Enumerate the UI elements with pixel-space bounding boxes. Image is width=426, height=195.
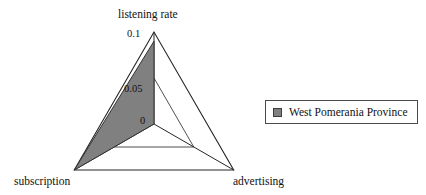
tick-label-middle: 0.05 bbox=[124, 84, 142, 95]
tick-label-outer: 0.1 bbox=[127, 29, 140, 40]
radar-chart-figure: listening rate subscription advertising … bbox=[0, 0, 426, 195]
legend-swatch-icon bbox=[273, 108, 282, 117]
tick-label-center: 0 bbox=[140, 116, 145, 127]
legend-entry-label: West Pomerania Province bbox=[289, 106, 408, 118]
axis-label-advertising: advertising bbox=[233, 176, 284, 188]
axis-label-listening-rate: listening rate bbox=[118, 9, 178, 21]
radar-chart-plot-area bbox=[0, 0, 426, 195]
chart-legend: West Pomerania Province bbox=[265, 100, 418, 124]
radar-series-west-pomerania-province bbox=[74, 41, 154, 170]
axis-label-subscription: subscription bbox=[14, 176, 70, 188]
